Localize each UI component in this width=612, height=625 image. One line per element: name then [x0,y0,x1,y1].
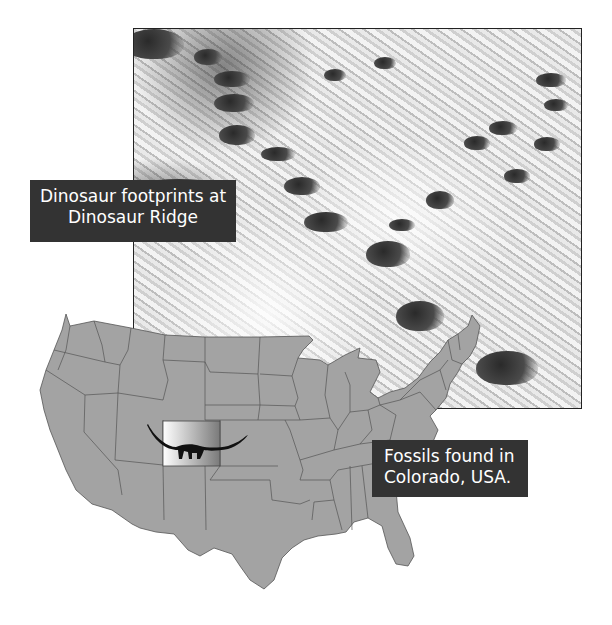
fossils-caption: Fossils found in Colorado, USA. [372,440,528,497]
footprints-caption: Dinosaur footprints at Dinosaur Ridge [30,180,236,242]
footprints-caption-line1: Dinosaur footprints at [38,186,228,207]
fossils-caption-line2: Colorado, USA. [384,467,520,488]
usa-map [0,0,612,625]
fossils-caption-line1: Fossils found in [384,446,520,467]
colorado-state [163,421,220,466]
footprints-caption-line2: Dinosaur Ridge [38,207,228,228]
